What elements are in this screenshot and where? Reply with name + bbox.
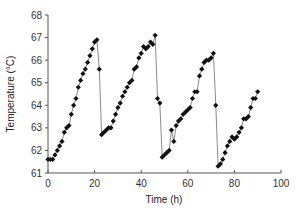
y-tick-label: 67 [31,32,43,43]
x-tick-label: 0 [45,178,51,189]
data-point-diamond-icon [211,51,216,56]
y-tick-label: 64 [31,100,43,111]
x-tick-label: 80 [229,178,241,189]
x-axis: 020406080100 [45,170,290,189]
y-tick-label: 62 [31,145,43,156]
data-point-diamond-icon [85,60,90,65]
data-point-diamond-icon [213,103,218,108]
data-point-diamond-icon [174,123,179,128]
data-point-diamond-icon [136,55,141,60]
data-point-diamond-icon [111,118,116,123]
data-point-diamond-icon [87,53,92,58]
data-point-diamond-icon [239,125,244,130]
data-point-diamond-icon [220,157,225,162]
y-tick-label: 63 [31,122,43,133]
y-tick-label: 66 [31,55,43,66]
data-point-diamond-icon [157,100,162,105]
data-point-diamond-icon [125,85,130,90]
data-point-diamond-icon [155,96,160,101]
x-tick-label: 40 [136,178,148,189]
data-point-diamond-icon [222,150,227,155]
data-point-diamond-icon [57,143,62,148]
data-point-diamond-icon [59,139,64,144]
data-point-diamond-icon [139,51,144,56]
data-point-diamond-icon [255,89,260,94]
y-axis-title: Temperature (°C) [5,56,16,133]
data-point-diamond-icon [120,94,125,99]
data-point-diamond-icon [83,67,88,72]
data-point-diamond-icon [122,89,127,94]
data-point-diamond-icon [118,100,123,105]
y-axis: 6162636465666768 [31,10,48,179]
y-tick-label: 65 [31,77,43,88]
data-point-diamond-icon [169,128,174,133]
data-point-diamond-icon [97,67,102,72]
data-point-diamond-icon [90,46,95,51]
data-point-diamond-icon [190,96,195,101]
data-point-diamond-icon [69,112,74,117]
x-tick-label: 100 [273,178,290,189]
data-point-diamond-icon [73,96,78,101]
data-point-diamond-icon [199,67,204,72]
data-point-diamond-icon [80,71,85,76]
data-point-diamond-icon [52,152,57,157]
data-point-diamond-icon [115,105,120,110]
data-point-diamond-icon [62,130,67,135]
temperature-chart: 6162636465666768 020406080100 Time (h) T… [0,0,302,214]
x-tick-label: 20 [89,178,101,189]
data-point-diamond-icon [225,143,230,148]
data-point-diamond-icon [153,33,158,38]
data-point-diamond-icon [197,73,202,78]
data-point-diamond-icon [248,105,253,110]
x-axis-title: Time (h) [146,194,183,205]
data-point-diamond-icon [227,139,232,144]
y-tick-label: 68 [31,10,43,21]
data-point-diamond-icon [71,103,76,108]
data-point-diamond-icon [236,130,241,135]
temperature-series [45,33,260,169]
data-point-diamond-icon [78,78,83,83]
data-point-diamond-icon [76,85,81,90]
y-tick-label: 61 [31,168,43,179]
x-tick-label: 60 [182,178,194,189]
data-point-diamond-icon [113,112,118,117]
data-point-diamond-icon [55,148,60,153]
data-point-diamond-icon [171,139,176,144]
